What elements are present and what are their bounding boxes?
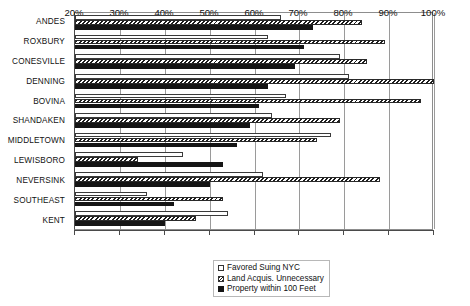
bar-open — [75, 54, 340, 59]
bar-open — [75, 113, 272, 118]
category-label: KENT — [0, 210, 70, 230]
category-label: ANDES — [0, 12, 70, 32]
x-tick — [209, 230, 210, 235]
bar-open — [75, 152, 183, 157]
category-label: LEWISBORO — [0, 151, 70, 171]
category-label: BOVINA — [0, 91, 70, 111]
bar-solid — [75, 202, 174, 207]
plot-area — [74, 12, 433, 230]
x-tick — [164, 230, 165, 235]
bar-group — [75, 52, 432, 72]
bar-open — [75, 74, 349, 79]
bar-rows — [75, 13, 432, 229]
bar-hatched — [75, 157, 138, 162]
bar-open — [75, 192, 147, 197]
gridline — [434, 13, 435, 229]
legend-item-label: Favored Suing NYC — [227, 263, 300, 273]
bar-solid — [75, 25, 313, 30]
bar-solid — [75, 143, 237, 148]
bar-solid — [75, 162, 223, 167]
open-square-icon — [218, 265, 224, 271]
bar-solid — [75, 123, 250, 128]
bar-group — [75, 131, 432, 151]
category-label: MIDDLETOWN — [0, 131, 70, 151]
bar-hatched — [75, 79, 434, 84]
category-label: SOUTHEAST — [0, 190, 70, 210]
bar-hatched — [75, 99, 421, 104]
x-tick — [254, 230, 255, 235]
bar-hatched — [75, 118, 340, 123]
category-axis: ANDESROXBURYCONESVILLEDENNINGBOVINASHAND… — [0, 12, 70, 230]
bar-group — [75, 13, 432, 33]
bar-hatched — [75, 177, 380, 182]
bar-hatched — [75, 59, 367, 64]
legend-item-label: Land Acquis. Unnecessary — [227, 274, 324, 284]
filled-square-icon — [218, 286, 224, 292]
bar-solid — [75, 45, 304, 50]
bar-group — [75, 150, 432, 170]
bar-open — [75, 15, 281, 20]
bar-group — [75, 92, 432, 112]
legend-item-label: Property within 100 Feet — [227, 284, 316, 294]
bar-solid — [75, 104, 259, 109]
category-label: SHANDAKEN — [0, 111, 70, 131]
bar-chart: ANDESROXBURYCONESVILLEDENNINGBOVINASHAND… — [0, 0, 470, 306]
category-label: NEVERSINK — [0, 171, 70, 191]
chart-legend: Favored Suing NYCLand Acquis. Unnecessar… — [213, 260, 330, 297]
x-tick — [298, 230, 299, 235]
bar-hatched — [75, 216, 196, 221]
bar-group — [75, 72, 432, 92]
bar-hatched — [75, 197, 223, 202]
bar-solid — [75, 64, 295, 69]
x-tick — [388, 230, 389, 235]
bar-hatched — [75, 40, 385, 45]
bar-group — [75, 170, 432, 190]
bar-open — [75, 35, 268, 40]
category-label: ROXBURY — [0, 32, 70, 52]
bar-group — [75, 190, 432, 210]
bar-solid — [75, 221, 165, 226]
bar-group — [75, 33, 432, 53]
legend-item: Property within 100 Feet — [218, 284, 324, 294]
hatched-square-icon — [218, 276, 224, 282]
category-label: DENNING — [0, 71, 70, 91]
bar-open — [75, 94, 286, 99]
bar-group — [75, 111, 432, 131]
bar-open — [75, 172, 263, 177]
x-tick — [343, 230, 344, 235]
x-tick — [433, 230, 434, 235]
legend-item: Favored Suing NYC — [218, 263, 324, 273]
bar-open — [75, 211, 228, 216]
bar-open — [75, 133, 331, 138]
bar-hatched — [75, 138, 317, 143]
bar-solid — [75, 182, 210, 187]
bar-hatched — [75, 20, 362, 25]
x-axis — [74, 230, 433, 231]
bar-solid — [75, 84, 268, 89]
bar-group — [75, 209, 432, 229]
category-label: CONESVILLE — [0, 52, 70, 72]
x-tick — [119, 230, 120, 235]
legend-item: Land Acquis. Unnecessary — [218, 274, 324, 284]
x-tick — [74, 230, 75, 235]
